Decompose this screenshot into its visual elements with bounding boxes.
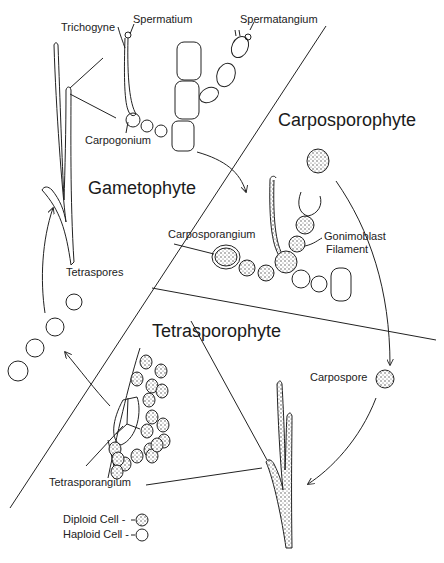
phase-gametophyte: Gametophyte [88, 178, 196, 199]
phase-carposporophyte: Carposporophyte [278, 110, 416, 131]
label-spermatangium: Spermatangium [240, 13, 318, 25]
label-spermatium: Spermatium [133, 13, 192, 25]
label-carposporangium: Carposporangium [168, 228, 255, 240]
trichogyne [124, 38, 136, 116]
label-tetraspores: Tetraspores [66, 266, 123, 278]
label-carpogonium: Carpogonium [85, 134, 151, 146]
diploid-legend-symbol [136, 514, 148, 526]
label-filament: Filament [326, 243, 368, 255]
label-gonimoblast: Gonimoblast [324, 230, 386, 242]
label-carpospore: Carpospore [310, 371, 367, 383]
label-trichogyne: Trichogyne [61, 21, 115, 33]
phase-tetrasporophyte: Tetrasporophyte [152, 321, 281, 342]
legend-diploid: Diploid Cell - [63, 513, 125, 525]
tetrasporophyte-plant [266, 381, 292, 548]
haploid-legend-symbol [136, 529, 148, 541]
legend-haploid: Haploid Cell - [63, 528, 129, 540]
label-tetrasporangium: Tetrasporangium [49, 476, 131, 488]
